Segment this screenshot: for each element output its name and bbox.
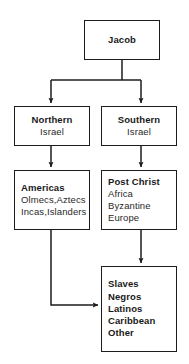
node-post-christ-line-1: Post Christ — [108, 176, 160, 188]
node-post-christ-line-4: Europe — [108, 212, 139, 224]
node-northern-israel-line-2: Israel — [40, 126, 64, 138]
edge-jacob-split — [51, 60, 141, 80]
node-slaves-group[interactable]: Slaves Negros Latinos Caribbean Other — [101, 266, 177, 352]
flowchart-canvas: Jacob Northern Israel Southern Israel Am… — [0, 0, 189, 364]
node-jacob-line-1: Jacob — [108, 34, 136, 46]
node-slaves-group-line-1: Slaves — [108, 278, 139, 290]
node-americas[interactable]: Americas Olmecs,Aztecs Incas,Islanders — [14, 170, 90, 230]
node-post-christ[interactable]: Post Christ Africa Byzantine Europe — [101, 170, 177, 230]
node-southern-israel[interactable]: Southern Israel — [101, 106, 177, 146]
node-northern-israel-line-1: Northern — [32, 114, 73, 126]
node-slaves-group-line-4: Caribbean — [108, 315, 155, 327]
node-jacob[interactable]: Jacob — [84, 20, 160, 60]
node-slaves-group-line-5: Other — [108, 327, 134, 339]
node-slaves-group-line-3: Latinos — [108, 303, 142, 315]
node-post-christ-line-3: Byzantine — [108, 200, 151, 212]
node-southern-israel-line-1: Southern — [118, 114, 161, 126]
node-americas-line-2: Olmecs,Aztecs — [21, 194, 86, 206]
node-northern-israel[interactable]: Northern Israel — [14, 106, 90, 146]
edge-americas-to-slaves — [51, 230, 98, 305]
node-americas-line-1: Americas — [21, 182, 65, 194]
node-post-christ-line-2: Africa — [108, 188, 133, 200]
node-southern-israel-line-2: Israel — [127, 126, 151, 138]
node-slaves-group-line-2: Negros — [108, 291, 141, 303]
node-americas-line-3: Incas,Islanders — [21, 206, 86, 218]
